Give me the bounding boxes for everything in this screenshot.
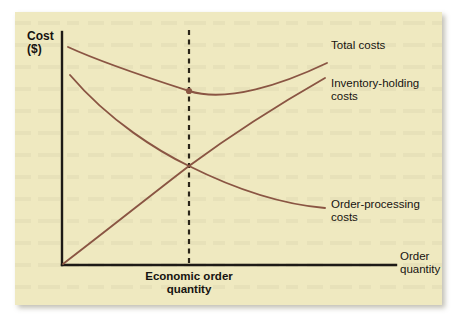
chart-panel: Cost ($) Total costs Inventory-holding c… [15,12,442,305]
total-cost-minimum-marker [186,88,192,94]
order-processing-costs-curve [70,75,325,208]
eoq-chart-figure: Cost ($) Total costs Inventory-holding c… [0,0,469,326]
series-label-order-processing-costs: Order-processing costs [331,198,420,224]
chart-plot-area [15,12,442,305]
inventory-holding-costs-curve [63,78,325,264]
series-label-inventory-holding-costs: Inventory-holding costs [331,77,419,103]
total-costs-curve [68,47,327,95]
y-axis-label: Cost ($) [27,30,54,57]
eoq-caption: Economic order quantity [119,270,259,296]
x-axis-label: Order quantity [400,250,440,276]
series-label-total-costs: Total costs [331,39,385,52]
